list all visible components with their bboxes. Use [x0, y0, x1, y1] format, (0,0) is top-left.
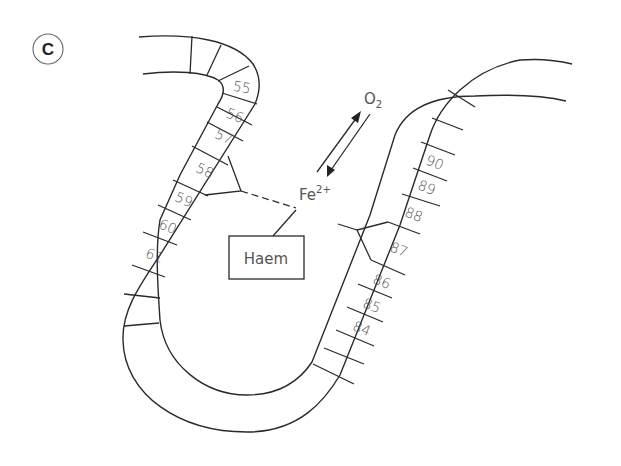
svg-text:55: 55	[232, 78, 252, 97]
distal-histidine	[338, 222, 388, 260]
reversible-arrows	[317, 111, 370, 177]
haem-box: Haem	[229, 236, 304, 279]
residue-labels-right: 90 89 88 87 86 85 84	[351, 152, 447, 340]
svg-text:O2: O2	[364, 90, 382, 110]
svg-text:89: 89	[416, 177, 439, 199]
svg-text:85: 85	[361, 295, 384, 317]
svg-text:61: 61	[144, 245, 166, 266]
haem-link	[273, 210, 296, 236]
proximal-histidine	[205, 156, 296, 208]
svg-text:C: C	[42, 40, 54, 59]
iron-label: Fe2+	[299, 184, 331, 204]
svg-text:57: 57	[213, 125, 236, 147]
svg-text:90: 90	[424, 152, 447, 174]
svg-text:Haem: Haem	[244, 250, 288, 268]
svg-text:58: 58	[194, 159, 217, 181]
haem-diagram: C 55 56 57 58 59	[0, 0, 621, 466]
svg-text:87: 87	[388, 239, 411, 261]
svg-text:84: 84	[351, 318, 374, 340]
svg-text:Fe2+: Fe2+	[299, 184, 331, 204]
svg-text:59: 59	[173, 188, 196, 210]
oxygen-label: O2	[364, 90, 382, 110]
panel-label: C	[33, 34, 63, 64]
